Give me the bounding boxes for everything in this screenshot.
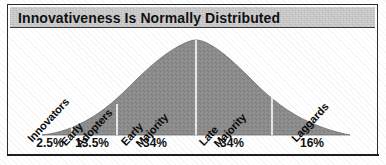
figure-title-bar: Innovativeness Is Normally Distributed xyxy=(10,7,375,28)
figure-bottom-rule xyxy=(7,154,379,156)
percentage-early-majority: 34% xyxy=(143,136,167,150)
bell-curve-plot: Innovators Early Adopters Early Majority… xyxy=(9,29,377,137)
figure-container: Innovativeness Is Normally Distributed xyxy=(0,0,386,165)
page-title: Innovativeness Is Normally Distributed xyxy=(18,10,280,26)
percentage-early-adopters: 13.5% xyxy=(75,136,109,150)
percentage-row: 2.5% 13.5% 34% 34% 16% xyxy=(9,136,377,152)
percentage-innovators: 2.5% xyxy=(36,136,63,150)
percentage-late-majority: 34% xyxy=(220,136,244,150)
percentage-laggards: 16% xyxy=(300,136,324,150)
bell-curve-svg xyxy=(9,29,377,137)
